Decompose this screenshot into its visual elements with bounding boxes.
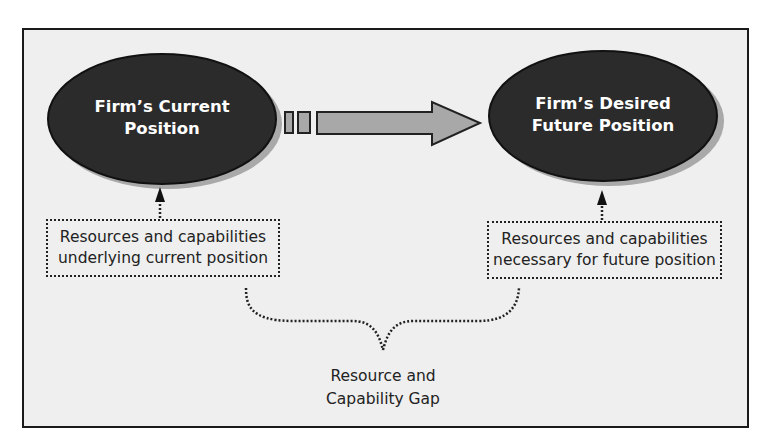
gap-brace [246,288,519,350]
future-resources-box: Resources and capabilities necessary for… [487,221,722,279]
current-resources-box: Resources and capabilities underlying cu… [46,219,280,277]
dotted-arrow-future [597,190,607,220]
block-arrow-icon [285,102,480,145]
future-position-label: Firm’s Desired Future Position [513,93,693,137]
current-position-label: Firm’s Current Position [82,96,242,140]
gap-label: Resource and Capability Gap [300,365,466,411]
dotted-arrow-current [155,187,165,218]
